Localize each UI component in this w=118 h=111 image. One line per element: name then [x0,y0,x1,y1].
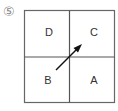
quadrant-label-top-left: D [42,26,56,38]
quadrant-label-top-right: C [87,26,101,38]
quadrant-label-bottom-right: A [87,74,101,86]
quadrant-grid [0,0,118,111]
quadrant-label-bottom-left: B [41,74,55,86]
